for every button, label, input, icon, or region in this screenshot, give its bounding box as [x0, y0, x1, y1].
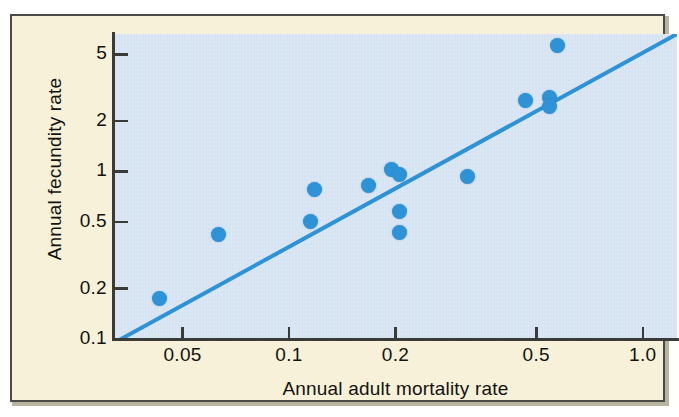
y-tick-mark	[115, 221, 128, 224]
data-point	[518, 93, 533, 108]
y-tick-mark	[115, 170, 128, 173]
x-tick-mark	[642, 327, 645, 339]
y-tick-label: 0.2	[80, 277, 107, 299]
data-point	[307, 182, 322, 197]
y-tick-mark	[115, 120, 128, 123]
y-tick-label: 5	[96, 42, 107, 64]
y-tick-label: 2	[96, 109, 107, 131]
x-tick-mark	[394, 327, 397, 339]
y-tick-label: 0.1	[80, 327, 107, 349]
y-axis-title: Annual fecundity rate	[44, 40, 66, 298]
y-tick-mark	[115, 53, 128, 56]
data-point	[211, 227, 226, 242]
y-tick-label: 0.5	[80, 210, 107, 232]
data-point	[392, 167, 407, 182]
data-point	[542, 99, 557, 114]
trend-line	[121, 34, 677, 339]
x-tick-mark	[535, 327, 538, 339]
plot-area	[114, 34, 677, 339]
data-point	[392, 204, 407, 219]
y-tick-mark	[115, 287, 128, 290]
trendline-layer	[114, 34, 677, 339]
x-tick-mark	[288, 327, 291, 339]
x-tick-label: 0.1	[275, 344, 302, 366]
x-tick-label: 0.05	[163, 344, 201, 366]
x-tick-label: 1.0	[629, 344, 656, 366]
y-axis-line	[112, 32, 115, 341]
x-tick-mark	[181, 327, 184, 339]
figure-panel: 5210.50.20.1 0.050.10.20.51.0 Annual adu…	[10, 14, 665, 402]
x-tick-label: 0.2	[382, 344, 409, 366]
y-tick-label: 1	[96, 159, 107, 181]
x-tick-label: 0.5	[523, 344, 550, 366]
data-point	[152, 291, 167, 306]
x-axis-title: Annual adult mortality rate	[114, 378, 677, 400]
